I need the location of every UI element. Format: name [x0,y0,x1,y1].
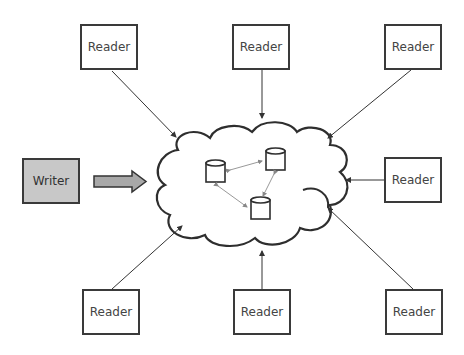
arrow-bottom-left [112,226,182,289]
reader-box-bottom-left: Reader [82,289,140,335]
reader-box-bottom-center: Reader [233,289,291,335]
reader-box-right: Reader [384,157,442,203]
arrow-top-right [328,70,411,138]
reader-label: Reader [241,305,283,319]
reader-box-top-left: Reader [80,24,138,70]
reader-box-top-right: Reader [384,24,442,70]
reader-label: Reader [88,40,130,54]
reader-box-bottom-right: Reader [385,289,443,335]
writer-arrow [94,171,146,192]
database-icon-1 [206,160,225,182]
reader-box-top-center: Reader [232,24,290,70]
reader-label: Reader [90,305,132,319]
arrow-top-left [112,71,176,137]
reader-label: Reader [240,40,282,54]
reader-label: Reader [392,173,434,187]
reader-label: Reader [393,305,435,319]
arrow-bottom-right [328,208,413,289]
writer-box: Writer [22,158,80,204]
database-icon-2 [266,148,285,170]
writer-label: Writer [33,174,70,188]
database-icon-3 [251,197,270,219]
cloud-shape [157,122,348,246]
reader-label: Reader [392,40,434,54]
